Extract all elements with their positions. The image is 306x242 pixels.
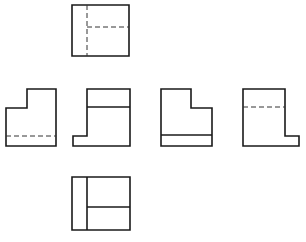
bottom-view [72, 177, 130, 230]
bottom-view-outline [72, 177, 130, 230]
drawing-canvas [0, 0, 306, 242]
front-view-outline [73, 89, 130, 146]
orthographic-views-diagram [0, 0, 306, 242]
left-view [6, 89, 56, 146]
top-view-outline [72, 5, 129, 56]
right-view-outline [161, 89, 212, 146]
rear-view-outline [243, 89, 299, 146]
rear-view [243, 89, 299, 146]
front-view [73, 89, 130, 146]
left-view-outline [6, 89, 56, 146]
right-view [161, 89, 212, 146]
top-view [72, 5, 129, 56]
